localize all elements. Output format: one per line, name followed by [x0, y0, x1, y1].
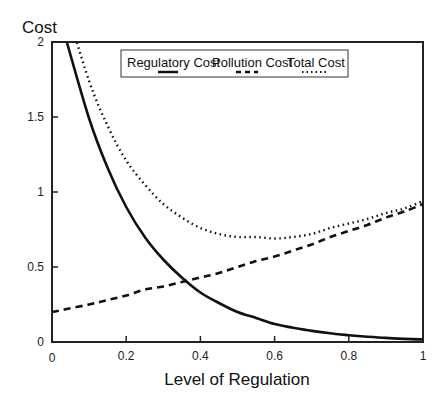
x-tick-label: 1: [420, 349, 427, 363]
legend-label-regulatory: Regulatory Cost: [127, 55, 221, 70]
y-tick-label: 0: [37, 335, 44, 349]
y-tick-label: 1: [37, 185, 44, 199]
x-tick-label: 0.6: [266, 349, 283, 363]
cost-chart: Cost Level of Regulation 00.511.52 00.20…: [0, 0, 444, 395]
x-axis-ticks: 00.20.40.60.81: [49, 336, 427, 365]
y-tick-label: 1.5: [27, 110, 44, 124]
legend-label-pollution: Pollution Cost: [212, 55, 293, 70]
x-tick-label: 0.4: [192, 349, 209, 363]
regulatory-cost-line: [67, 42, 423, 339]
plot-frame: [52, 42, 423, 342]
legend: Regulatory Cost Pollution Cost Total Cos…: [121, 50, 348, 77]
legend-label-total: Total Cost: [287, 55, 345, 70]
x-tick-label: 0.8: [340, 349, 357, 363]
total-cost-line: [67, 9, 423, 239]
x-tick-label: 0: [49, 351, 56, 365]
x-tick-label: 0.2: [118, 349, 135, 363]
x-axis-title: Level of Regulation: [164, 370, 310, 389]
y-tick-label: 0.5: [27, 260, 44, 274]
y-axis-ticks: 00.511.52: [27, 35, 58, 349]
y-tick-label: 2: [37, 35, 44, 49]
